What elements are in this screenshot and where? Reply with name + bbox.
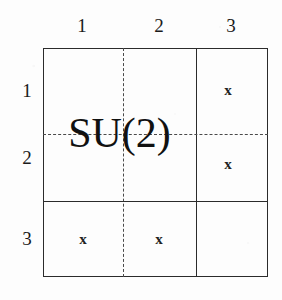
column-header-1: 1 (67, 14, 97, 38)
cell-marker-row3-col1: x (69, 230, 97, 248)
matrix-block-figure: 1 2 3 1 2 3 SU(2) x x x x (0, 0, 282, 300)
row-header-3: 3 (15, 228, 39, 250)
block-label-su2: SU(2) (43, 108, 196, 158)
divider-horizontal-solid-row2-row3 (43, 201, 268, 202)
column-header-2: 2 (144, 14, 174, 38)
row-header-2: 2 (15, 147, 39, 169)
divider-vertical-solid-col2-col3 (196, 48, 197, 277)
divider-vertical-dashed-col1-col2 (123, 48, 124, 277)
column-header-3: 3 (216, 14, 246, 38)
cell-marker-row1-col3: x (214, 81, 242, 99)
cell-marker-row3-col2: x (145, 230, 173, 248)
cell-marker-row2-col3: x (214, 155, 242, 173)
row-header-1: 1 (15, 80, 39, 102)
